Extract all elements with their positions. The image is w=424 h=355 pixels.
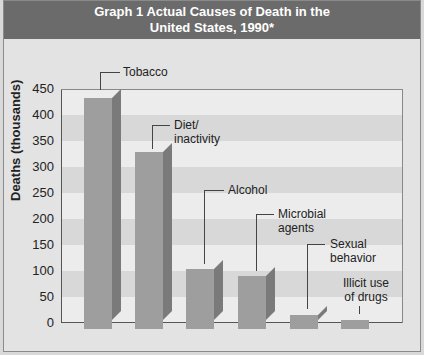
label-diet-line1: Diet/: [174, 118, 199, 132]
y-axis-label: Deaths (thousands): [8, 80, 23, 201]
leader-line: [100, 72, 101, 90]
leader-line: [152, 125, 170, 126]
bar-illicit-drugs: [341, 311, 379, 329]
plot-right-border: [402, 89, 403, 323]
y-axis-line: [61, 89, 62, 323]
leader-line: [307, 244, 308, 309]
bar-alcohol: [186, 260, 224, 329]
leader-line: [256, 214, 257, 271]
leader-line: [100, 72, 120, 73]
bar-sexual-behavior: [290, 306, 328, 329]
y-tick: 100: [4, 263, 54, 278]
leader-line: [152, 125, 153, 149]
chart-title: Graph 1 Actual Causes of Death in the Un…: [4, 1, 420, 39]
label-sexual-line2: behavior: [330, 251, 376, 265]
leader-line: [307, 244, 325, 245]
bar-tobacco: [84, 89, 122, 329]
label-alcohol: Alcohol: [228, 183, 267, 197]
chart-frame: Graph 1 Actual Causes of Death in the Un…: [3, 0, 421, 352]
label-microbial-line1: Microbial: [278, 207, 326, 221]
label-tobacco: Tobacco: [123, 65, 168, 79]
y-tick: 50: [4, 289, 54, 304]
leader-line: [204, 190, 205, 264]
y-tick: 0: [4, 315, 54, 330]
label-microbial-line2: agents: [278, 221, 314, 235]
y-tick: 150: [4, 237, 54, 252]
leader-line: [256, 214, 274, 215]
label-sexual-line1: Sexual: [330, 237, 367, 251]
label-drugs-line2: of drugs: [336, 290, 396, 304]
leader-line: [359, 306, 360, 314]
label-drugs-line1: Illicit use: [336, 276, 396, 290]
label-diet-line2: inactivity: [174, 132, 220, 146]
title-line-1: Graph 1 Actual Causes of Death in the: [4, 4, 420, 20]
bar-diet-inactivity: [135, 143, 173, 329]
y-tick: 200: [4, 211, 54, 226]
title-line-2: United States, 1990*: [4, 20, 420, 36]
bar-microbial-agents: [238, 267, 276, 329]
leader-line: [204, 190, 224, 191]
